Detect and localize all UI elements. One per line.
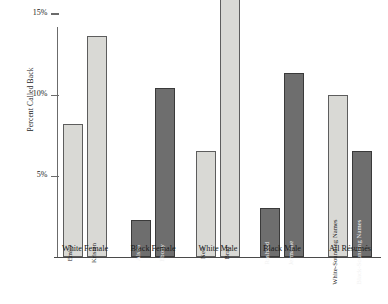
y-tick-label: 5%	[37, 170, 48, 179]
bar-black-sounding-names: Black-Sounding Names	[352, 151, 372, 257]
y-tick-5pct: 5%	[51, 176, 59, 177]
bar-ebony: Ebony	[155, 88, 175, 257]
y-tick-10pct: 10%	[51, 95, 59, 96]
bar-kristen: Kristen	[87, 36, 107, 257]
y-tick-label: 10%	[33, 89, 48, 98]
bar-emily: Emily	[63, 124, 83, 257]
group-label-white-female: White Female	[54, 244, 116, 253]
bar-jermaine: Jermaine	[284, 73, 304, 257]
bar-brad: Brad	[220, 0, 240, 257]
bar-chart: Percent Called Back 15%10%5% EmilyKriste…	[0, 0, 388, 304]
y-tick-15pct: 15%	[51, 13, 59, 14]
y-axis-line	[57, 27, 58, 258]
y-axis-title: Percent Called Back	[26, 20, 35, 180]
group-label-black-female: Black Female	[122, 244, 184, 253]
y-tick-label: 15%	[33, 8, 48, 17]
group-label-black-male: Black Male	[251, 244, 313, 253]
plot-area: 15%10%5% EmilyKristenAishaEbonyNeilBradR…	[57, 20, 381, 258]
group-label-white-male: White Male	[187, 244, 249, 253]
group-label-all-r-sum-s: All Résumés	[319, 244, 381, 253]
bar-white-sounding-names: White-Sounding Names	[328, 95, 348, 258]
bar-neil: Neil	[196, 151, 216, 257]
